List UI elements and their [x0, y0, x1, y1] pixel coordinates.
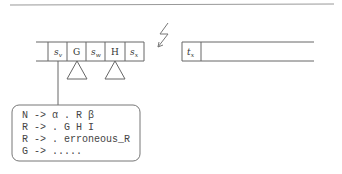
diagram: sv G sw H sx tx N -> α . R β R -> . G H …: [0, 0, 342, 174]
input-buffer: [182, 42, 314, 61]
top-divider: [10, 4, 334, 5]
subtree-g-triangle: [67, 61, 87, 79]
subtree-h-triangle: [105, 61, 125, 79]
stack-cell-2: sw: [91, 47, 102, 58]
stack-cell-4: sx: [130, 47, 139, 58]
input-cell: tx: [187, 47, 195, 58]
stack-cell-0: sv: [54, 47, 63, 58]
lightning-bolt-icon: [158, 23, 168, 47]
item-rule-1: R -> . G H I: [22, 122, 94, 133]
item-rule-2: R -> . erroneous_R: [22, 134, 130, 145]
stack-cell-3: H: [111, 47, 119, 57]
item-rule-0: N -> α . R β: [22, 110, 94, 121]
stack-cell-1: G: [73, 47, 80, 57]
item-rule-3: G -> .....: [22, 146, 82, 157]
diagram-svg: sv G sw H sx tx N -> α . R β R -> . G H …: [0, 0, 342, 174]
parse-stack: [36, 42, 144, 61]
